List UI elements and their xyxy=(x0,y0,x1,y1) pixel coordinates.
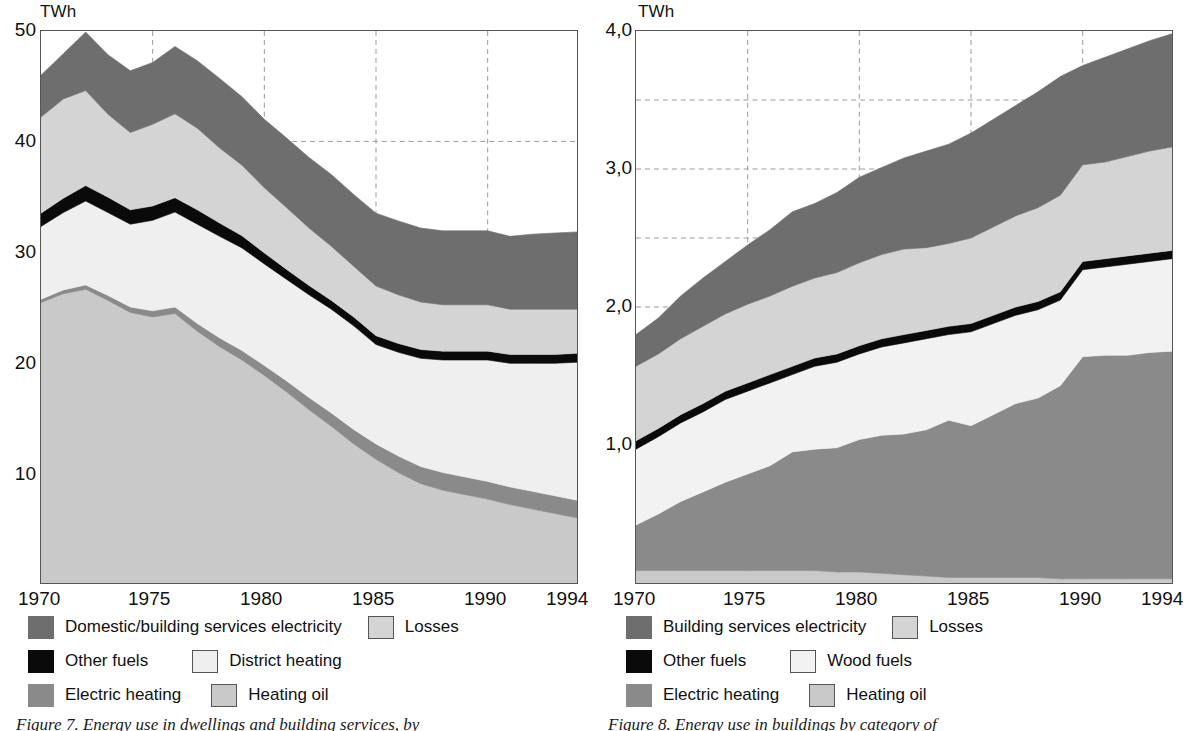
legend-label: Electric heating xyxy=(663,685,779,705)
legend-item-building-services-electricity[interactable]: Building services electricity xyxy=(626,616,866,639)
legend-swatch-losses xyxy=(368,616,394,639)
figure-page: TWh 50 40 30 20 10 1970 1975 1980 1985 1… xyxy=(0,0,1197,731)
legend-item-electric-heating[interactable]: Electric heating xyxy=(626,684,779,707)
legend-swatch-losses xyxy=(892,616,918,639)
legend-row: Other fuels District heating xyxy=(28,646,588,676)
legend-swatch-electric-heating xyxy=(626,684,652,707)
legend-swatch-wood-fuels xyxy=(790,650,816,673)
left-figure-caption: Figure 7. Energy use in dwellings and bu… xyxy=(16,715,586,731)
legend-item-losses[interactable]: Losses xyxy=(892,616,983,639)
left-y-axis: 50 40 30 20 10 xyxy=(0,28,36,584)
legend-swatch-electric-heating xyxy=(28,684,54,707)
legend-item-losses[interactable]: Losses xyxy=(368,616,459,639)
right-figure-caption: Figure 8. Energy use in buildings by cat… xyxy=(608,715,1188,731)
legend-item-domestic-building-services-electricity[interactable]: Domestic/building services electricity xyxy=(28,616,342,639)
right-x-axis: 1970 1975 1980 1985 1990 1994 xyxy=(600,588,1197,614)
legend-row: Electric heating Heating oil xyxy=(28,680,588,710)
legend-label: Domestic/building services electricity xyxy=(65,617,342,637)
legend-swatch-services-electricity xyxy=(626,616,652,639)
legend-item-heating-oil[interactable]: Heating oil xyxy=(211,684,328,707)
left-xtick-1994: 1994 xyxy=(546,588,588,610)
left-xtick-1985: 1985 xyxy=(352,588,394,610)
right-xtick-1970: 1970 xyxy=(613,588,655,610)
legend-label: Other fuels xyxy=(663,651,746,671)
right-chart-legend: Building services electricity Losses Oth… xyxy=(626,612,1186,714)
left-x-axis: 1970 1975 1980 1985 1990 1994 xyxy=(0,588,600,614)
legend-label: Losses xyxy=(929,617,983,637)
legend-item-other-fuels[interactable]: Other fuels xyxy=(28,650,148,673)
right-y-axis: 4,0 3,0 2,0 1,0 xyxy=(600,28,632,584)
right-xtick-1994: 1994 xyxy=(1141,588,1183,610)
left-figure-panel: TWh 50 40 30 20 10 1970 1975 1980 1985 1… xyxy=(0,0,600,731)
legend-label: Wood fuels xyxy=(827,651,912,671)
legend-swatch-district-heating xyxy=(192,650,218,673)
left-xtick-1975: 1975 xyxy=(128,588,170,610)
left-ytick-50: 50 xyxy=(15,19,36,41)
legend-row: Electric heating Heating oil xyxy=(626,680,1186,710)
legend-label: Heating oil xyxy=(846,685,926,705)
left-chart-svg xyxy=(41,31,577,583)
left-y-unit-label: TWh xyxy=(40,2,76,22)
right-xtick-1990: 1990 xyxy=(1059,588,1101,610)
legend-label: Losses xyxy=(405,617,459,637)
right-ytick-3: 3,0 xyxy=(606,157,632,179)
right-chart-svg xyxy=(636,31,1172,583)
legend-label: Electric heating xyxy=(65,685,181,705)
right-ytick-1: 1,0 xyxy=(606,433,632,455)
left-chart-legend: Domestic/building services electricity L… xyxy=(28,612,588,714)
legend-label: Building services electricity xyxy=(663,617,866,637)
legend-item-district-heating[interactable]: District heating xyxy=(192,650,341,673)
legend-item-electric-heating[interactable]: Electric heating xyxy=(28,684,181,707)
legend-swatch-other-fuels xyxy=(626,650,652,673)
legend-item-wood-fuels[interactable]: Wood fuels xyxy=(790,650,912,673)
legend-item-heating-oil[interactable]: Heating oil xyxy=(809,684,926,707)
right-ytick-2: 2,0 xyxy=(606,295,632,317)
left-ytick-40: 40 xyxy=(15,130,36,152)
legend-swatch-other-fuels xyxy=(28,650,54,673)
legend-row: Domestic/building services electricity L… xyxy=(28,612,588,642)
left-xtick-1980: 1980 xyxy=(240,588,282,610)
legend-item-other-fuels[interactable]: Other fuels xyxy=(626,650,746,673)
right-xtick-1985: 1985 xyxy=(947,588,989,610)
legend-swatch-heating-oil xyxy=(211,684,237,707)
legend-label: Heating oil xyxy=(248,685,328,705)
left-xtick-1970: 1970 xyxy=(18,588,60,610)
left-xtick-1990: 1990 xyxy=(464,588,506,610)
legend-label: Other fuels xyxy=(65,651,148,671)
right-chart-plot-area xyxy=(635,30,1173,584)
legend-row: Building services electricity Losses xyxy=(626,612,1186,642)
right-ytick-4: 4,0 xyxy=(606,19,632,41)
legend-swatch-services-electricity xyxy=(28,616,54,639)
right-y-unit-label: TWh xyxy=(638,2,674,22)
legend-row: Other fuels Wood fuels xyxy=(626,646,1186,676)
legend-swatch-heating-oil xyxy=(809,684,835,707)
left-ytick-20: 20 xyxy=(15,352,36,374)
right-figure-panel: TWh 4,0 3,0 2,0 1,0 1970 1975 1980 1985 … xyxy=(600,0,1197,731)
legend-label: District heating xyxy=(229,651,341,671)
left-ytick-10: 10 xyxy=(15,463,36,485)
left-ytick-30: 30 xyxy=(15,241,36,263)
left-chart-plot-area xyxy=(40,30,578,584)
right-xtick-1975: 1975 xyxy=(723,588,765,610)
right-xtick-1980: 1980 xyxy=(835,588,877,610)
